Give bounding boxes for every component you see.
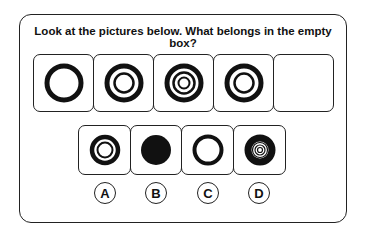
sequence-box-2 [93, 54, 154, 112]
filled-circle-icon [138, 132, 174, 168]
sequence-box-1 [33, 54, 94, 112]
option-label-d[interactable]: D [248, 182, 270, 204]
option-box-d[interactable] [233, 125, 286, 175]
double-ring-icon [87, 132, 123, 168]
triple-ring-icon [162, 61, 206, 105]
option-label-b[interactable]: B [145, 182, 167, 204]
option-box-b[interactable] [130, 125, 182, 175]
single-ring-icon [42, 61, 86, 105]
sequence-box-3 [153, 54, 214, 112]
single-ring-icon [190, 132, 226, 168]
puzzle-card: Look at the pictures below. What belongs… [19, 14, 347, 223]
quadruple-ring-icon [242, 132, 278, 168]
sequence-box-4 [213, 54, 274, 112]
double-ring-icon [102, 61, 146, 105]
question-text: Look at the pictures below. What belongs… [20, 25, 346, 49]
option-label-c[interactable]: C [197, 182, 219, 204]
option-box-c[interactable] [181, 125, 234, 175]
option-box-a[interactable] [78, 125, 131, 175]
option-label-a[interactable]: A [94, 182, 116, 204]
sequence-box-empty [273, 54, 334, 112]
double-ring-icon [222, 61, 266, 105]
